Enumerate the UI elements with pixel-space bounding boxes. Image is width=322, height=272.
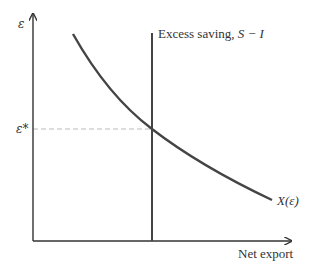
- excess-saving-math: S − I: [238, 26, 265, 41]
- excess-saving-text: Excess saving,: [158, 26, 238, 41]
- y-axis-label: ε: [18, 17, 24, 31]
- excess-saving-label: Excess saving, S − I: [158, 26, 265, 41]
- net-export-curve: [73, 34, 272, 200]
- diagram-canvas: ε ε* Excess saving, S − I X(ε) Net expor…: [0, 0, 322, 272]
- x-axis-label: Net export: [238, 246, 294, 261]
- curve-label: X(ε): [276, 193, 299, 208]
- equilibrium-label: ε*: [16, 122, 28, 136]
